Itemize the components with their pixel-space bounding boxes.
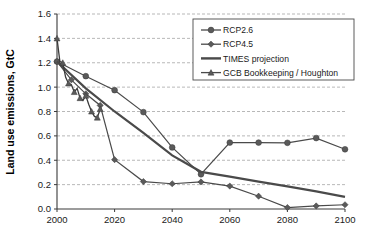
legend-label: TIMES projection (223, 54, 289, 64)
y-tick-label-1.4: 1.4 (38, 33, 51, 44)
y-tick-label-0.4: 0.4 (38, 155, 51, 166)
data-point-marker (83, 73, 89, 79)
legend-marker-circle-icon (208, 27, 214, 33)
land-use-emissions-line-chart: 0.00.20.40.60.81.01.21.41.6 200020202040… (0, 0, 366, 242)
legend-label: RCP4.5 (223, 39, 253, 49)
y-tick-label-0.2: 0.2 (38, 179, 51, 190)
data-point-marker (227, 140, 233, 146)
data-point-marker (285, 140, 291, 146)
x-tick-label-2000: 2000 (46, 214, 67, 225)
data-point-marker (141, 109, 147, 115)
y-tick-label-1.6: 1.6 (38, 8, 51, 19)
y-tick-label-0.0: 0.0 (38, 203, 51, 214)
y-axis-title-text: Land use emissions, GtC (4, 49, 16, 175)
y-axis-title: Land use emissions, GtC (4, 49, 16, 175)
data-point-marker (256, 140, 262, 146)
x-tick-label-2080: 2080 (277, 214, 298, 225)
data-point-marker (169, 145, 175, 151)
chart-figure: 0.00.20.40.60.81.01.21.41.6 200020202040… (0, 0, 366, 242)
data-point-marker (342, 146, 348, 152)
y-tick-label-1.0: 1.0 (38, 82, 51, 93)
x-tick-label-2020: 2020 (104, 214, 125, 225)
legend-label: GCB Bookkeeping / Houghton (223, 68, 338, 78)
chart-legend: RCP2.6RCP4.5TIMES projectionGCB Bookkeep… (193, 19, 354, 80)
data-point-marker (313, 135, 319, 141)
x-tick-label-2040: 2040 (162, 214, 183, 225)
x-tick-label-2100: 2100 (334, 214, 355, 225)
x-tick-label-2060: 2060 (219, 214, 240, 225)
legend-label: RCP2.6 (223, 25, 253, 35)
y-tick-label-0.6: 0.6 (38, 130, 51, 141)
y-tick-label-1.2: 1.2 (38, 57, 51, 68)
y-tick-label-0.8: 0.8 (38, 106, 51, 117)
data-point-marker (112, 87, 118, 93)
